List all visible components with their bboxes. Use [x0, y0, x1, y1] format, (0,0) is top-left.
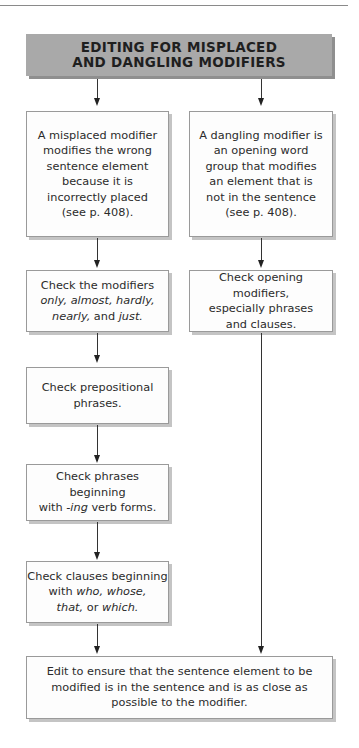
connector-line — [261, 333, 262, 648]
dangling-modifier-definition-box: A dangling modifier is an opening word g… — [189, 111, 333, 237]
box-text-line: an element that is — [209, 174, 312, 190]
connector-line — [97, 238, 98, 262]
connector-line — [97, 624, 98, 648]
box-text-line: modifies the wrong — [43, 143, 152, 159]
box-text-line: (see p. 408). — [62, 205, 134, 221]
arrow-down-icon — [94, 260, 100, 268]
arrow-down-icon — [258, 260, 264, 268]
box-text-line: an opening word — [214, 143, 309, 159]
check-opening-modifiers-box: Check opening modifiers, especially phra… — [189, 270, 333, 332]
arrow-down-icon — [258, 646, 264, 654]
arrow-down-icon — [94, 355, 100, 363]
step-text: with — [49, 585, 77, 598]
step-line: Check phrases beginning — [27, 469, 168, 500]
step-text-italic: nearly, — [52, 310, 90, 323]
arrow-down-icon — [94, 552, 100, 560]
step-text-italic: which. — [102, 601, 139, 614]
box-text-line: not in the sentence — [206, 190, 316, 206]
step-text: verb forms. — [88, 501, 156, 514]
step-text-italic: who, whose, — [76, 585, 146, 598]
step-line: phrases. — [73, 396, 121, 412]
step-line: Check opening modifiers, — [190, 270, 332, 301]
step-line: nearly, and just. — [52, 309, 143, 325]
box-text-line: because it is — [62, 174, 133, 190]
step-text: and — [90, 310, 118, 323]
step-line: especially phrases — [209, 301, 313, 317]
step-line: Check the modifiers — [41, 278, 154, 294]
step-line: that, or which. — [57, 600, 139, 616]
flowchart-title: EDITING FOR MISPLACED AND DANGLING MODIF… — [26, 34, 332, 76]
connector-line — [97, 333, 98, 357]
page-top-rule — [0, 5, 348, 6]
step-line: Check prepositional — [42, 380, 154, 396]
step-text-italic: that, — [57, 601, 84, 614]
edit-instruction-box: Edit to ensure that the sentence element… — [26, 656, 333, 719]
step-line: and clauses. — [226, 317, 297, 333]
step-text: or — [83, 601, 102, 614]
box-text-line: incorrectly placed — [47, 190, 148, 206]
check-relative-clauses-box: Check clauses beginning with who, whose,… — [26, 561, 169, 623]
connector-line — [261, 238, 262, 262]
connector-line — [97, 522, 98, 556]
box-text-line: (see p. 408). — [225, 205, 297, 221]
step-text-italic: just. — [119, 310, 143, 323]
title-line-1: EDITING FOR MISPLACED — [81, 40, 277, 55]
box-text-line: Edit to ensure that the sentence element… — [47, 664, 313, 680]
arrow-down-icon — [258, 98, 264, 106]
box-text-line: A dangling modifier is — [199, 128, 323, 144]
step-text: with — [39, 501, 67, 514]
box-text-line: group that modifies — [205, 159, 316, 175]
misplaced-modifier-definition-box: A misplaced modifier modifies the wrong … — [26, 111, 169, 237]
title-line-2: AND DANGLING MODIFIERS — [72, 55, 286, 70]
step-line: with who, whose, — [49, 584, 147, 600]
check-ing-phrases-box: Check phrases beginning with -ing verb f… — [26, 464, 169, 521]
step-line: only, almost, hardly, — [40, 293, 154, 309]
box-text-line: A misplaced modifier — [38, 128, 157, 144]
box-text-line: modified is in the sentence and is as cl… — [51, 680, 307, 696]
step-text: Check the modifiers — [41, 279, 154, 292]
arrow-down-icon — [94, 646, 100, 654]
arrow-down-icon — [94, 455, 100, 463]
box-text-line: sentence element — [47, 159, 149, 175]
arrow-down-icon — [94, 98, 100, 106]
step-line: with -ing verb forms. — [39, 500, 157, 516]
step-text-italic: only, almost, hardly, — [40, 294, 154, 307]
check-prepositional-phrases-box: Check prepositional phrases. — [26, 367, 169, 424]
step-line: Check clauses beginning — [27, 569, 167, 585]
box-text-line: possible to the modifier. — [111, 695, 247, 711]
step-text-italic: -ing — [66, 501, 88, 514]
check-limiting-modifiers-box: Check the modifiers only, almost, hardly… — [26, 270, 169, 332]
